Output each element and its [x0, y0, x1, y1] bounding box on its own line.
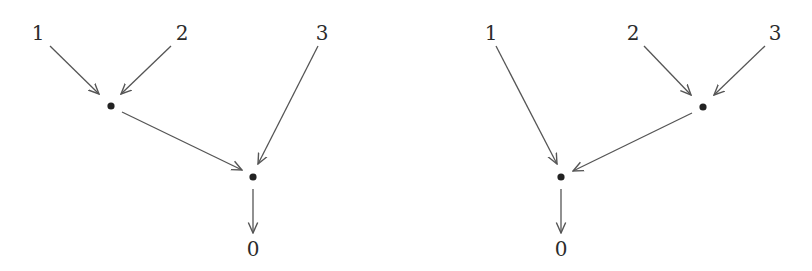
leaf-label-2: 2: [627, 21, 640, 45]
edge-2-to-internal: [121, 46, 171, 94]
edge-1-to-junction: [496, 46, 557, 164]
left-tree: 1 2 3 0: [32, 21, 329, 261]
junction-node: [249, 173, 256, 180]
tree-diagrams: 1 2 3 0 1 2 3 0: [0, 0, 812, 271]
leaf-label-3: 3: [769, 21, 782, 45]
edge-internal-to-junction: [122, 112, 242, 170]
internal-node: [699, 103, 706, 110]
junction-node: [557, 173, 564, 180]
leaf-label-2: 2: [176, 21, 189, 45]
edge-internal-to-junction: [573, 113, 692, 171]
edge-2-to-internal: [644, 46, 691, 95]
internal-node: [107, 102, 114, 109]
root-label-0: 0: [555, 237, 568, 261]
right-tree: 1 2 3 0: [485, 21, 782, 261]
edge-3-to-internal: [714, 46, 765, 95]
edge-3-to-junction: [258, 46, 318, 164]
leaf-label-1: 1: [485, 21, 498, 45]
leaf-label-1: 1: [32, 21, 45, 45]
root-label-0: 0: [247, 237, 260, 261]
edge-1-to-internal: [50, 46, 99, 94]
leaf-label-3: 3: [316, 21, 329, 45]
